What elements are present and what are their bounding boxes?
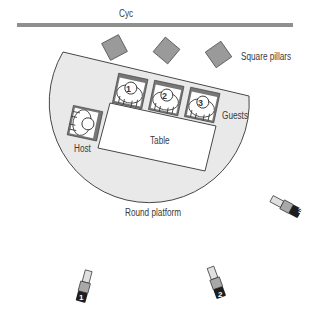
cyc-label: Cyc — [119, 8, 133, 19]
guest-number-3: 3 — [198, 98, 203, 108]
camera-number-2: 2 — [218, 290, 222, 299]
camera-number-3: 3 — [298, 206, 302, 215]
guest-number-2: 2 — [162, 91, 167, 101]
guest-number-1: 1 — [126, 84, 131, 94]
table-label: Table — [150, 135, 170, 146]
pillar-1 — [102, 35, 128, 61]
host-label: Host — [74, 143, 91, 154]
pillar-2 — [153, 37, 180, 64]
square-pillars-label: Square pillars — [241, 51, 291, 62]
round-platform-label: Round platform — [125, 207, 181, 218]
studio-floor-plan — [0, 0, 322, 323]
guests-label: Guests — [222, 110, 248, 121]
pillar-3 — [205, 41, 231, 67]
camera-number-1: 1 — [79, 293, 83, 302]
camera-2 — [206, 266, 226, 299]
host — [67, 105, 103, 141]
